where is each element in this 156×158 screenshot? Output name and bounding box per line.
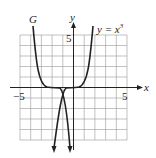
- curve-arrow-icon: [52, 146, 57, 153]
- x-max-tick-label: 5: [122, 91, 128, 102]
- curve-g-label: G: [29, 14, 37, 25]
- plot-area: [0, 0, 156, 158]
- curve-label-text: y = x: [97, 23, 120, 35]
- curve-label-exponent: 3: [120, 22, 124, 30]
- curve-label: y = x3: [97, 23, 123, 35]
- y-axis-label: y: [70, 12, 75, 23]
- y-max-tick-label: 5: [66, 33, 72, 44]
- curve-arrow-icon: [68, 146, 73, 153]
- x-axis-arrow-icon: [137, 85, 143, 90]
- x-axis-label: x: [144, 82, 149, 93]
- x-min-tick-label: −5: [13, 91, 25, 102]
